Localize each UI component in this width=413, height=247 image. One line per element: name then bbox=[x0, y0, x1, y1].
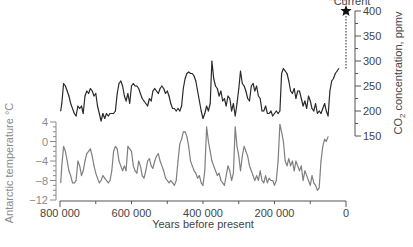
co2-point bbox=[190, 73, 191, 74]
temperature-point bbox=[224, 185, 225, 186]
co2-point bbox=[85, 96, 86, 97]
temperature-point bbox=[321, 161, 322, 162]
co2-point bbox=[156, 91, 157, 92]
temperature-point bbox=[285, 161, 286, 162]
temperature-point bbox=[215, 170, 216, 171]
temperature-point bbox=[140, 165, 141, 166]
temperature-point bbox=[144, 178, 145, 179]
temperature-point bbox=[288, 158, 289, 159]
co2-point bbox=[183, 88, 184, 89]
temperature-point bbox=[113, 151, 114, 152]
temperature-point bbox=[315, 185, 316, 186]
co2-point bbox=[161, 86, 162, 87]
co2-point bbox=[165, 93, 166, 94]
co2-point bbox=[90, 88, 91, 89]
temperature-point bbox=[272, 180, 273, 181]
co2-point bbox=[178, 108, 179, 109]
co2-point bbox=[120, 81, 121, 82]
co2-point bbox=[283, 68, 284, 69]
temperature-point bbox=[81, 175, 82, 176]
co2-point bbox=[172, 108, 173, 109]
co2-point bbox=[338, 68, 339, 69]
co2-point bbox=[136, 86, 137, 87]
temperature-point bbox=[172, 183, 173, 184]
temperature-point bbox=[158, 153, 159, 154]
co2-point bbox=[242, 83, 243, 84]
chart-canvas: 150200250300350400 −12−8−404 800 000600 … bbox=[0, 0, 413, 247]
temperature-point bbox=[220, 180, 221, 181]
co2-point bbox=[144, 101, 145, 102]
co2-point bbox=[335, 73, 336, 74]
temperature-point bbox=[313, 183, 314, 184]
co2-axis-title-rest: concentration, ppmv bbox=[392, 11, 404, 114]
temperature-point bbox=[292, 161, 293, 162]
temperature-point bbox=[153, 168, 154, 169]
temperature-point bbox=[187, 136, 188, 137]
co2-point bbox=[206, 106, 207, 107]
temperature-tick-label: 0 bbox=[42, 136, 48, 148]
x-axis: 800 000600 000400 000200 0000 bbox=[40, 201, 349, 219]
co2-point bbox=[154, 88, 155, 89]
co2-point bbox=[262, 111, 263, 112]
co2-point bbox=[220, 91, 221, 92]
temperature-point bbox=[265, 175, 266, 176]
co2-point bbox=[67, 91, 68, 92]
co2-point bbox=[310, 101, 311, 102]
co2-point bbox=[194, 76, 195, 77]
temperature-point bbox=[278, 161, 279, 162]
temperature-point bbox=[88, 151, 89, 152]
co2-point bbox=[326, 111, 327, 112]
temperature-point bbox=[204, 170, 205, 171]
co2-point bbox=[76, 116, 77, 117]
temperature-point bbox=[72, 183, 73, 184]
temperature-point bbox=[228, 165, 229, 166]
temperature-point bbox=[103, 175, 104, 176]
temperature-point bbox=[274, 185, 275, 186]
co2-point bbox=[235, 116, 236, 117]
temperature-point bbox=[254, 180, 255, 181]
temperature-point bbox=[83, 170, 84, 171]
temperature-point bbox=[115, 146, 116, 147]
co2-point bbox=[199, 101, 200, 102]
temperature-point bbox=[201, 183, 202, 184]
co2-point bbox=[271, 111, 272, 112]
co2-point bbox=[265, 106, 266, 107]
temperature-point bbox=[128, 146, 129, 147]
co2-tick-label: 250 bbox=[363, 80, 381, 92]
co2-point bbox=[192, 73, 193, 74]
co2-point bbox=[99, 113, 100, 114]
co2-point bbox=[95, 93, 96, 94]
temperature-point bbox=[70, 175, 71, 176]
temperature-point bbox=[156, 156, 157, 157]
temperature-point bbox=[77, 161, 78, 162]
temperature-point bbox=[203, 185, 204, 186]
co2-point bbox=[122, 86, 123, 87]
co2-point bbox=[322, 108, 323, 109]
temperature-point bbox=[310, 185, 311, 186]
temperature-point bbox=[188, 146, 189, 147]
co2-point bbox=[317, 113, 318, 114]
co2-point bbox=[106, 113, 107, 114]
co2-point bbox=[315, 103, 316, 104]
co2-point bbox=[115, 111, 116, 112]
co2-point bbox=[187, 73, 188, 74]
temperature-point bbox=[299, 170, 300, 171]
co2-tick-label: 150 bbox=[363, 130, 381, 142]
temperature-point bbox=[271, 180, 272, 181]
x-axis-title: Years before present bbox=[152, 218, 254, 230]
co2-point bbox=[133, 83, 134, 84]
temperature-tick-label: 4 bbox=[42, 116, 48, 128]
co2-point bbox=[101, 121, 102, 122]
co2-point bbox=[237, 103, 238, 104]
co2-point bbox=[229, 98, 230, 99]
co2-point bbox=[337, 71, 338, 72]
temperature-point bbox=[65, 151, 66, 152]
co2-point bbox=[81, 106, 82, 107]
temperature-point bbox=[149, 158, 150, 159]
temperature-point bbox=[263, 183, 264, 184]
temperature-point bbox=[296, 161, 297, 162]
temperature-point bbox=[163, 170, 164, 171]
co2-point bbox=[294, 88, 295, 89]
temperature-point bbox=[131, 151, 132, 152]
temperature-point bbox=[101, 180, 102, 181]
